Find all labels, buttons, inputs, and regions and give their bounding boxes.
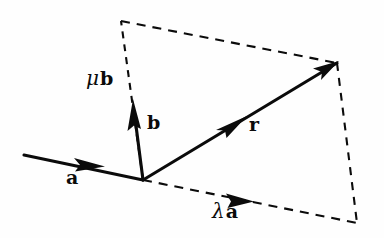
- vector-diagram-figure: a b r μb λa: [0, 0, 384, 238]
- label-vector-b: b: [147, 113, 160, 132]
- arrowhead-r-tip: [313, 61, 339, 80]
- label-vector-a: a: [66, 168, 78, 187]
- label-lambda-a-vector: a: [226, 200, 238, 222]
- label-mu-b: μb: [86, 68, 113, 88]
- label-vector-r: r: [249, 115, 259, 134]
- label-mu-b-vector: b: [100, 67, 113, 89]
- dashed-edge-right: [337, 63, 357, 223]
- dashed-edge-top: [121, 21, 337, 63]
- arrowhead-b: [128, 99, 142, 131]
- vector-b: [128, 99, 144, 180]
- vector-diagram-canvas: [0, 0, 384, 238]
- vector-r: [143, 63, 337, 180]
- mu-symbol: μ: [86, 66, 100, 90]
- lambda-symbol: λ: [212, 199, 226, 223]
- vector-a: [24, 155, 143, 180]
- label-lambda-a: λa: [212, 201, 238, 221]
